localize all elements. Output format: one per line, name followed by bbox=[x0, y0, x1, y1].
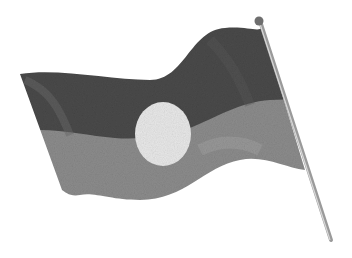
flag-illustration bbox=[0, 0, 352, 258]
flag-circle bbox=[135, 102, 191, 166]
pole-finial bbox=[255, 17, 264, 26]
flag-cloth bbox=[0, 0, 352, 258]
flag-drawing: Pencil drawing of a waving flag on a pol… bbox=[0, 0, 352, 258]
